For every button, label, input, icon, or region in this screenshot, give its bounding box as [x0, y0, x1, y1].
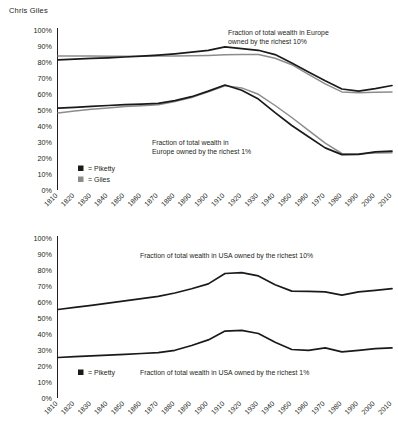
x-axis-labels-usa: 1810182018301840185018601870188018901900…: [43, 400, 393, 416]
y-tick-label: 10%: [38, 170, 53, 179]
x-axis-labels-europe: 1810182018301840185018601870188018901900…: [43, 192, 393, 208]
x-tick-label: 1930: [243, 400, 259, 416]
x-tick-label: 1980: [327, 400, 343, 416]
legend-europe: = Piketty = Giles: [78, 165, 116, 183]
x-tick-label: 1820: [59, 400, 75, 416]
y-tick-label: 10%: [38, 378, 53, 387]
legend-label-giles: = Giles: [88, 176, 110, 183]
annotation-line: Fraction of total wealth in: [152, 139, 229, 146]
x-tick-label: 1830: [76, 192, 92, 208]
x-tick-label: 1840: [93, 192, 109, 208]
x-tick-label: 1920: [226, 192, 242, 208]
x-tick-label: 2010: [377, 400, 393, 416]
x-tick-label: 1950: [277, 192, 293, 208]
x-tick-label: 1880: [160, 192, 176, 208]
byline: Chris Giles: [9, 6, 48, 15]
plot-lines-usa: [58, 273, 392, 358]
y-tick-label: 80%: [38, 266, 53, 275]
x-tick-label: 1970: [310, 192, 326, 208]
annotation-usa-top10: Fraction of total wealth in USA owned by…: [140, 252, 313, 260]
annotation-usa-top1: Fraction of total wealth in USA owned by…: [140, 369, 309, 377]
series-line-giles-top10: [58, 55, 392, 93]
x-tick-label: 1980: [327, 192, 343, 208]
x-tick-label: 2010: [377, 192, 393, 208]
x-tick-label: 1990: [343, 192, 359, 208]
y-tick-label: 0%: [42, 186, 53, 195]
x-tick-label: 1830: [76, 400, 92, 416]
y-tick-label: 50%: [38, 106, 53, 115]
x-tick-label: 1850: [110, 400, 126, 416]
legend-usa: = Piketty: [78, 369, 116, 377]
x-tick-label: 1820: [59, 192, 75, 208]
y-tick-label: 100%: [34, 26, 53, 35]
x-tick-label: 1970: [310, 400, 326, 416]
y-tick-label: 90%: [38, 42, 53, 51]
x-tick-label: 1950: [277, 400, 293, 416]
y-tick-label: 40%: [38, 122, 53, 131]
x-tick-label: 1860: [126, 192, 142, 208]
x-tick-label: 1920: [226, 400, 242, 416]
y-tick-label: 20%: [38, 154, 53, 163]
annotation-line: Europe owned by the richest 1%: [152, 148, 251, 156]
x-tick-label: 1850: [110, 192, 126, 208]
x-tick-label: 1940: [260, 400, 276, 416]
x-tick-label: 1930: [243, 192, 259, 208]
x-tick-label: 1890: [176, 400, 192, 416]
x-tick-label: 1960: [293, 400, 309, 416]
annotation-line: owned by the richest 10%: [228, 38, 307, 46]
y-tick-label: 0%: [42, 394, 53, 403]
y-axis-labels-usa: 100% 90% 80% 70% 60% 50% 40% 30% 20% 10%…: [34, 234, 53, 403]
x-tick-label: 1940: [260, 192, 276, 208]
series-line-piketty-usa-top10: [58, 273, 392, 310]
x-tick-label: 1900: [193, 192, 209, 208]
x-tick-label: 1860: [126, 400, 142, 416]
x-tick-label: 1880: [160, 400, 176, 416]
piketty-swatch: [78, 370, 84, 376]
x-tick-label: 1840: [93, 400, 109, 416]
y-tick-label: 70%: [38, 74, 53, 83]
x-tick-label: 1990: [343, 400, 359, 416]
x-tick-label: 1910: [210, 192, 226, 208]
x-tick-label: 1910: [210, 400, 226, 416]
annotation-line: Fraction of total wealth in Europe: [228, 29, 329, 37]
x-tick-label: 1900: [193, 400, 209, 416]
giles-swatch: [78, 177, 84, 183]
annotation-europe-top1: Fraction of total wealth in Europe owned…: [152, 139, 251, 156]
y-tick-label: 20%: [38, 362, 53, 371]
piketty-swatch: [78, 166, 84, 172]
series-line-piketty-usa-top1: [58, 330, 392, 357]
y-tick-label: 70%: [38, 282, 53, 291]
x-tick-label: 2000: [360, 192, 376, 208]
x-tick-label: 1870: [143, 400, 159, 416]
y-axis-labels-europe: 100% 90% 80% 70% 60% 50% 40% 30% 20% 10%…: [34, 26, 53, 195]
y-tick-label: 100%: [34, 234, 53, 243]
x-tick-label: 1960: [293, 192, 309, 208]
y-tick-label: 60%: [38, 298, 53, 307]
y-tick-label: 80%: [38, 58, 53, 67]
y-tick-label: 30%: [38, 346, 53, 355]
chart-usa-svg: 100% 90% 80% 70% 60% 50% 40% 30% 20% 10%…: [0, 230, 398, 445]
y-tick-label: 50%: [38, 314, 53, 323]
annotation-europe-top10: Fraction of total wealth in Europe owned…: [228, 29, 329, 46]
x-tick-label: 2000: [360, 400, 376, 416]
chart-usa: 100% 90% 80% 70% 60% 50% 40% 30% 20% 10%…: [0, 230, 398, 445]
legend-label-piketty: = Piketty: [88, 369, 116, 377]
y-tick-label: 40%: [38, 330, 53, 339]
legend-label-piketty: = Piketty: [88, 165, 116, 173]
chart-europe-svg: 100% 90% 80% 70% 60% 50% 40% 30% 20% 10%…: [0, 22, 398, 222]
chart-europe: 100% 90% 80% 70% 60% 50% 40% 30% 20% 10%…: [0, 22, 398, 222]
y-tick-label: 90%: [38, 250, 53, 259]
y-tick-label: 60%: [38, 90, 53, 99]
y-tick-label: 30%: [38, 138, 53, 147]
x-tick-label: 1890: [176, 192, 192, 208]
x-tick-label: 1870: [143, 192, 159, 208]
